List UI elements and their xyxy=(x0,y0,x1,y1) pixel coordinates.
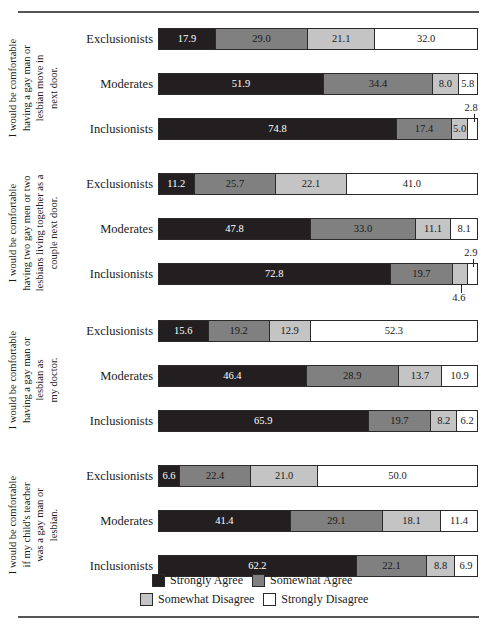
row-category-label: Moderates xyxy=(60,514,153,528)
bar-segment-strongly-agree[interactable]: 46.4 xyxy=(159,366,307,386)
bar-segment-strongly-disagree[interactable]: 5.8 xyxy=(459,74,477,94)
bar-segment-value: 8.1 xyxy=(458,224,471,235)
bar-segment-strongly-disagree[interactable]: 2.9 xyxy=(468,264,477,284)
stacked-bar[interactable]: 6.622.421.050.0 xyxy=(158,465,478,487)
chart-row: Exclusionists6.622.421.050.0 xyxy=(60,465,489,510)
bar-segment-somewhat-disagree[interactable]: 13.7 xyxy=(399,366,443,386)
bar-segment-strongly-disagree[interactable]: 52.3 xyxy=(311,321,477,341)
bar-segment-strongly-disagree[interactable]: 32.0 xyxy=(375,29,477,49)
legend-item-strongly-disagree[interactable]: Strongly Disagree xyxy=(263,593,368,606)
bar-segment-somewhat-agree[interactable]: 34.4 xyxy=(324,74,433,94)
row-category-label: Inclusionists xyxy=(60,559,153,573)
bar-segment-strongly-agree[interactable]: 51.9 xyxy=(159,74,324,94)
bar-segment-strongly-disagree[interactable]: 6.2 xyxy=(457,411,477,431)
bar-segment-value: 33.0 xyxy=(354,224,372,235)
question-label-text: I would be comfortable having two gay me… xyxy=(6,163,60,303)
bar-segment-value: 8.2 xyxy=(437,416,450,427)
bar-segment-somewhat-agree[interactable]: 19.7 xyxy=(369,411,432,431)
bar-segment-value: 74.8 xyxy=(268,124,286,135)
legend-label: Strongly Agree xyxy=(170,574,243,587)
bar-segment-somewhat-disagree[interactable]: 21.0 xyxy=(251,466,318,486)
bar-segment-somewhat-agree[interactable]: 29.0 xyxy=(216,29,308,49)
bar-segment-strongly-disagree[interactable]: 8.1 xyxy=(451,219,477,239)
stacked-bar[interactable]: 46.428.913.710.9 xyxy=(158,365,478,387)
legend-row: Strongly AgreeSomewhat Agree xyxy=(152,571,452,590)
bar-segment-value: 5.0 xyxy=(453,124,466,135)
bar-segment-strongly-disagree[interactable]: 2.8 xyxy=(468,119,477,139)
bar-segment-value: 34.4 xyxy=(369,79,387,90)
row-category-label: Exclusionists xyxy=(60,32,153,46)
bar-segment-strongly-disagree[interactable]: 10.9 xyxy=(442,366,477,386)
bar-segment-somewhat-agree[interactable]: 29.1 xyxy=(291,511,384,531)
bar-segment-somewhat-agree[interactable]: 33.0 xyxy=(311,219,416,239)
legend-item-somewhat-disagree[interactable]: Somewhat Disagree xyxy=(140,593,254,606)
bar-segment-somewhat-disagree[interactable]: 21.1 xyxy=(308,29,375,49)
question-label: I would be comfortable if my child's tea… xyxy=(0,455,60,600)
bar-segment-value: 22.1 xyxy=(382,561,400,572)
stacked-bar[interactable]: 15.619.212.952.3 xyxy=(158,320,478,342)
callout-leader-line xyxy=(474,114,475,122)
bar-segment-somewhat-disagree[interactable]: 8.0 xyxy=(433,74,458,94)
stacked-bar[interactable]: 41.429.118.111.4 xyxy=(158,510,478,532)
bar-segment-strongly-agree[interactable]: 72.8 xyxy=(159,264,391,284)
bar-segment-value: 72.8 xyxy=(265,269,283,280)
stacked-bar[interactable]: 17.929.021.132.0 xyxy=(158,28,478,50)
bar-segment-somewhat-agree[interactable]: 25.7 xyxy=(195,174,277,194)
bar-segment-somewhat-disagree[interactable]: 11.1 xyxy=(416,219,451,239)
bar-segment-strongly-disagree[interactable]: 6.9 xyxy=(455,556,477,576)
bar-segment-somewhat-disagree[interactable]: 8.2 xyxy=(431,411,457,431)
bar-segment-somewhat-agree[interactable]: 19.7 xyxy=(391,264,454,284)
legend-item-somewhat-agree[interactable]: Somewhat Agree xyxy=(252,574,352,587)
top-rule xyxy=(18,11,479,13)
bar-segment-value: 8.8 xyxy=(434,561,447,572)
bar-segment-value: 15.6 xyxy=(174,326,192,337)
bar-segment-strongly-disagree[interactable]: 41.0 xyxy=(347,174,477,194)
bar-segment-somewhat-disagree[interactable]: 4.6 xyxy=(453,264,468,284)
stacked-bar[interactable]: 51.934.48.05.8 xyxy=(158,73,478,95)
stacked-bar[interactable]: 11.225.722.141.0 xyxy=(158,173,478,195)
legend-label: Somewhat Agree xyxy=(270,574,352,587)
stacked-bar[interactable]: 74.817.45.02.8 xyxy=(158,118,478,140)
question-label-text: I would be comfortable having a gay man … xyxy=(6,18,60,158)
legend-label: Strongly Disagree xyxy=(281,593,368,606)
bar-segment-strongly-agree[interactable]: 74.8 xyxy=(159,119,397,139)
bar-segment-strongly-agree[interactable]: 17.9 xyxy=(159,29,216,49)
bar-segment-strongly-agree[interactable]: 47.8 xyxy=(159,219,311,239)
legend-item-strongly-agree[interactable]: Strongly Agree xyxy=(152,574,243,587)
bar-segment-somewhat-agree[interactable]: 19.2 xyxy=(209,321,270,341)
question-label: I would be comfortable having a gay man … xyxy=(0,310,60,455)
bar-segment-strongly-disagree[interactable]: 50.0 xyxy=(318,466,477,486)
bar-segment-somewhat-disagree[interactable]: 22.1 xyxy=(276,174,346,194)
legend-swatch-somewhat-agree xyxy=(252,574,265,587)
bar-segment-value: 47.8 xyxy=(225,224,243,235)
bar-segment-value: 29.1 xyxy=(327,516,345,527)
chart-row: Moderates41.429.118.111.4 xyxy=(60,510,489,555)
bar-segment-somewhat-agree[interactable]: 17.4 xyxy=(397,119,452,139)
bar-segment-value: 11.2 xyxy=(167,179,185,190)
bar-segment-value: 21.0 xyxy=(275,471,293,482)
stacked-bar[interactable]: 47.833.011.18.1 xyxy=(158,218,478,240)
bar-segment-value: 11.4 xyxy=(450,516,468,527)
bar-segment-strongly-agree[interactable]: 15.6 xyxy=(159,321,209,341)
callout-leader-line xyxy=(473,259,474,267)
legend-row: Somewhat DisagreeStrongly Disagree xyxy=(140,590,452,609)
bar-segment-somewhat-disagree[interactable]: 18.1 xyxy=(383,511,441,531)
bar-segment-value: 46.4 xyxy=(223,371,241,382)
stacked-bar[interactable]: 72.819.74.62.9 xyxy=(158,263,478,285)
bar-segment-somewhat-agree[interactable]: 22.4 xyxy=(180,466,251,486)
bar-segment-somewhat-disagree[interactable]: 5.0 xyxy=(452,119,468,139)
bar-segment-value: 19.7 xyxy=(412,269,430,280)
chart-legend: Strongly AgreeSomewhat AgreeSomewhat Dis… xyxy=(152,571,452,609)
bar-segment-strongly-disagree[interactable]: 11.4 xyxy=(441,511,477,531)
bar-segment-somewhat-agree[interactable]: 28.9 xyxy=(307,366,399,386)
segment-callout-label: 2.9 xyxy=(464,248,477,259)
bar-segment-strongly-agree[interactable]: 11.2 xyxy=(159,174,195,194)
row-category-label: Exclusionists xyxy=(60,324,153,338)
row-category-label: Moderates xyxy=(60,222,153,236)
legend-label: Somewhat Disagree xyxy=(158,593,254,606)
bar-segment-somewhat-disagree[interactable]: 12.9 xyxy=(270,321,311,341)
bar-segment-strongly-agree[interactable]: 41.4 xyxy=(159,511,291,531)
bar-segment-strongly-agree[interactable]: 65.9 xyxy=(159,411,369,431)
bar-segment-strongly-agree[interactable]: 6.6 xyxy=(159,466,180,486)
stacked-bar[interactable]: 65.919.78.26.2 xyxy=(158,410,478,432)
